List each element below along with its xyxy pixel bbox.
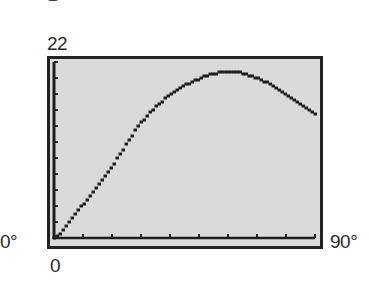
curve-pixel: [53, 237, 57, 240]
curve-pixel: [275, 87, 279, 90]
curve-pixel: [191, 81, 195, 84]
curve-pixel: [131, 135, 135, 138]
curve-pixel: [83, 203, 87, 206]
curve-pixel: [314, 113, 318, 116]
curve-pixel: [269, 83, 273, 86]
curve-pixel: [59, 233, 63, 236]
curve-pixel: [125, 143, 129, 146]
curve-pixel: [140, 121, 144, 124]
curve-pixel: [149, 111, 153, 114]
curve-pixel: [128, 139, 132, 142]
curve-pixel: [71, 217, 75, 220]
curve-pixel: [173, 91, 177, 94]
curve-pixel: [257, 77, 261, 80]
curve-pixel: [239, 71, 243, 74]
curve-pixel: [176, 89, 180, 92]
curve-pixel: [152, 109, 156, 112]
curve-pixel: [224, 71, 228, 74]
curve-pixel: [170, 93, 174, 96]
curve-pixel: [266, 81, 270, 84]
curve-pixel: [119, 153, 123, 156]
curve-pixel: [281, 91, 285, 94]
curve-pixel: [134, 129, 138, 132]
curve-pixel: [251, 75, 255, 78]
curve-pixel: [293, 99, 297, 102]
curve-pixel: [203, 75, 207, 78]
curve-pixel: [254, 77, 258, 80]
curve-pixel: [62, 229, 66, 232]
curve-pixel: [95, 187, 99, 190]
curve-pixel: [209, 73, 213, 76]
curve-pixel: [287, 95, 291, 98]
curve-pixel: [158, 103, 162, 106]
curve-pixel: [278, 89, 282, 92]
curve-pixel: [101, 179, 105, 182]
curve-pixel: [296, 101, 300, 104]
curve-pixel: [107, 171, 111, 174]
curve-pixel: [116, 157, 120, 160]
curve-pixel: [80, 205, 84, 208]
curve-pixel: [212, 73, 216, 76]
curve-pixel: [194, 79, 198, 82]
curve-pixel: [188, 83, 192, 86]
curve-pixel: [122, 149, 126, 152]
curve-pixel: [260, 79, 264, 82]
curve-pixel: [155, 105, 159, 108]
curve-pixel: [110, 167, 114, 170]
curve-pixel: [221, 71, 225, 74]
curve-pixel: [299, 103, 303, 106]
curve-pixel: [137, 125, 141, 128]
curve-pixel: [92, 191, 96, 194]
curve-pixel: [65, 225, 69, 228]
curve-pixel: [86, 199, 90, 202]
curve-pixel: [143, 119, 147, 122]
curve-pixel: [308, 109, 312, 112]
curve-pixel: [113, 163, 117, 166]
curve-pixel: [215, 73, 219, 76]
curve-pixel: [167, 95, 171, 98]
curve-pixel: [74, 213, 78, 216]
curve-pixel: [179, 87, 183, 90]
curve-pixel: [236, 71, 240, 74]
plot-area: [0, 0, 369, 284]
curve-pixel: [311, 111, 315, 114]
curve-pixel: [284, 93, 288, 96]
curve-pixel: [185, 83, 189, 86]
curve-pixel: [230, 71, 234, 74]
curve-pixel: [233, 71, 237, 74]
curve-pixel: [248, 75, 252, 78]
curve-pixel: [89, 195, 93, 198]
curve-pixel: [77, 209, 81, 212]
curve-pixel: [245, 73, 249, 76]
curve-pixel: [68, 221, 72, 224]
curve-pixel: [98, 183, 102, 186]
curve-pixel: [218, 71, 222, 74]
curve-pixel: [290, 97, 294, 100]
curve-pixel: [206, 75, 210, 78]
curve-pixel: [302, 105, 306, 108]
curve-pixel: [161, 101, 165, 104]
curve-pixel: [146, 115, 150, 118]
data-curve: [53, 71, 318, 240]
curve-pixel: [305, 107, 309, 110]
curve-pixel: [200, 77, 204, 80]
curve-pixel: [227, 71, 231, 74]
curve-pixel: [263, 81, 267, 84]
curve-pixel: [197, 79, 201, 82]
curve-pixel: [182, 85, 186, 88]
curve-pixel: [104, 175, 108, 178]
curve-pixel: [164, 97, 168, 100]
curve-pixel: [272, 85, 276, 88]
curve-pixel: [56, 235, 60, 238]
curve-pixel: [242, 73, 246, 76]
